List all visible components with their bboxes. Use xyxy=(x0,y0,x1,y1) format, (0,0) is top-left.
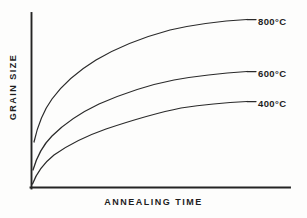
curve-600c xyxy=(33,72,247,171)
series-label-800c: 800°C xyxy=(258,16,287,27)
x-axis-title: ANNEALING TIME xyxy=(0,197,307,207)
y-axis-title: GRAIN SIZE xyxy=(8,42,18,132)
series-label-400c: 400°C xyxy=(258,98,287,109)
grain-size-annealing-time-chart: 800°C 600°C 400°C ANNEALING TIME GRAIN S… xyxy=(0,0,307,218)
series-label-600c: 600°C xyxy=(258,68,287,79)
curve-400c xyxy=(33,102,248,185)
plot-area xyxy=(0,0,307,218)
curve-group xyxy=(33,20,257,185)
axis-group xyxy=(31,13,291,189)
